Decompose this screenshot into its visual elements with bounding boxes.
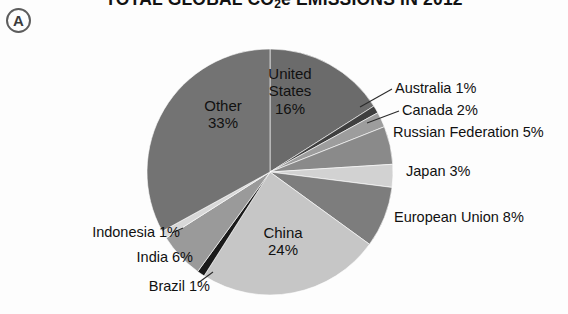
slice-label-china-pct: 24% (248, 241, 318, 258)
slice-label-japan: Japan 3% (406, 163, 471, 179)
slice-label-united-states-name1: United (255, 65, 325, 82)
slice-label-canada: Canada 2% (402, 102, 478, 118)
slice-label-other-pct: 33% (186, 114, 260, 131)
pie-chart-svg (0, 0, 568, 314)
slice-label-russian-federation: Russian Federation 5% (393, 124, 544, 140)
slice-label-china: China 24% (248, 224, 318, 259)
figure-root: A TOTAL GLOBAL CO2e EMISSIONS IN 2012 Ot… (0, 0, 568, 314)
slice-label-european-union: European Union 8% (394, 209, 524, 225)
slice-label-united-states-name2: States (255, 82, 325, 99)
slice-label-united-states-pct: 16% (255, 100, 325, 117)
slice-label-other: Other 33% (186, 97, 260, 132)
slice-label-brazil: Brazil 1% (35, 278, 210, 294)
slice-label-united-states: United States 16% (255, 65, 325, 117)
slice-label-indonesia: Indonesia 1% (35, 224, 180, 240)
slice-label-australia: Australia 1% (395, 80, 476, 96)
pie-chart (0, 0, 568, 314)
slice-label-china-name: China (248, 224, 318, 241)
slice-label-other-name: Other (186, 97, 260, 114)
slice-label-india: India 6% (35, 249, 193, 265)
